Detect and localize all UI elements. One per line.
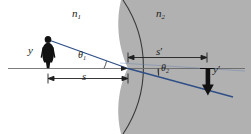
object-distance-dimension	[48, 74, 128, 84]
label-theta2: θ2	[161, 63, 169, 74]
label-n2: n2	[156, 8, 165, 21]
object-person-silhouette	[41, 36, 56, 68]
incident-ray	[46, 39, 128, 69]
theta1-angle-arc	[104, 61, 107, 68]
label-theta1: θ1	[78, 50, 86, 61]
label-n1: n1	[72, 8, 81, 21]
label-object-height-y: y	[28, 45, 33, 56]
refraction-diagram: n1 n2 y θ1 θ2 s s′ y′	[0, 0, 251, 134]
label-object-distance-s: s	[82, 71, 86, 82]
label-image-height-y-prime: y′	[213, 64, 220, 75]
label-image-distance-s-prime: s′	[156, 46, 163, 57]
